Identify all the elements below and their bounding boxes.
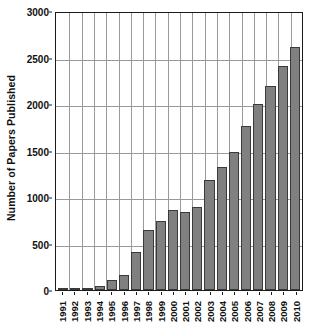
x-tick-mark — [173, 292, 174, 295]
x-tick-label: 1996 — [118, 301, 129, 322]
y-tick-label: 1000 — [27, 193, 49, 204]
x-tick-mark — [87, 292, 88, 295]
x-tick-label: 2005 — [229, 301, 240, 322]
x-tick-mark — [222, 292, 223, 295]
x-tick-mark — [259, 292, 260, 295]
bar-slot — [289, 13, 301, 290]
bar-slot — [69, 13, 81, 290]
bar-slot — [203, 13, 215, 290]
x-tick-slot: 2004 — [216, 292, 228, 329]
x-tick-mark — [210, 292, 211, 295]
x-tick-slot: 1997 — [130, 292, 142, 329]
x-tick-mark — [247, 292, 248, 295]
bar-slot — [57, 13, 69, 290]
bar — [217, 167, 227, 290]
x-tick-mark — [124, 292, 125, 295]
x-tick-label: 2007 — [253, 301, 264, 322]
x-tick-label: 2006 — [241, 301, 252, 322]
x-tick-mark — [136, 292, 137, 295]
bar-slot — [277, 13, 289, 290]
x-tick-label: 1992 — [69, 301, 80, 322]
x-tick-mark — [197, 292, 198, 295]
bar — [253, 104, 263, 290]
x-tick-mark — [74, 292, 75, 295]
bar — [107, 280, 117, 290]
x-tick-slot: 1995 — [105, 292, 117, 329]
x-tick-label: 2010 — [290, 301, 301, 322]
y-axis-title: Number of Papers Published — [0, 0, 22, 295]
bar — [70, 288, 80, 290]
y-tick-mark — [49, 198, 52, 199]
bar — [131, 252, 141, 290]
x-tick-label: 2008 — [266, 301, 277, 322]
x-tick-label: 2001 — [180, 301, 191, 322]
x-tick-label: 1993 — [81, 301, 92, 322]
bar-slot — [191, 13, 203, 290]
bar-slot — [118, 13, 130, 290]
x-tick-mark — [296, 292, 297, 295]
x-tick-slot: 1991 — [56, 292, 68, 329]
x-tick-label: 2002 — [192, 301, 203, 322]
bar-slot — [240, 13, 252, 290]
bar-slot — [167, 13, 179, 290]
x-tick-slot: 2001 — [179, 292, 191, 329]
x-tick-label: 1994 — [94, 301, 105, 322]
bar — [180, 212, 190, 290]
x-tick-mark — [283, 292, 284, 295]
bar-slot — [94, 13, 106, 290]
y-tick-label: 2000 — [27, 100, 49, 111]
bar — [168, 210, 178, 290]
x-tick-slot: 2000 — [167, 292, 179, 329]
bar — [82, 288, 92, 290]
x-tick-label: 1998 — [143, 301, 154, 322]
x-tick-mark — [148, 292, 149, 295]
x-tick-label: 2009 — [278, 301, 289, 322]
bar — [265, 86, 275, 290]
bar-slot — [216, 13, 228, 290]
bar-slot — [264, 13, 276, 290]
y-tick-label: 2500 — [27, 53, 49, 64]
x-tick-slot: 2006 — [240, 292, 252, 329]
x-tick-slot: 2002 — [191, 292, 203, 329]
x-tick-label: 1999 — [155, 301, 166, 322]
y-tick-mark — [49, 244, 52, 245]
x-tick-label: 1991 — [57, 301, 68, 322]
x-tick-mark — [185, 292, 186, 295]
y-tick-mark — [49, 12, 52, 13]
plot-area — [55, 12, 303, 291]
bar — [229, 152, 239, 290]
y-tick-mark — [49, 151, 52, 152]
x-tick-mark — [271, 292, 272, 295]
y-axis-ticks: 050010001500200025003000 — [22, 12, 52, 291]
y-tick-mark — [49, 58, 52, 59]
x-tick-slot: 2003 — [204, 292, 216, 329]
x-tick-slot: 1998 — [142, 292, 154, 329]
bar-slot — [142, 13, 154, 290]
bar-slot — [81, 13, 93, 290]
x-tick-mark — [234, 292, 235, 295]
x-tick-slot: 1996 — [117, 292, 129, 329]
x-tick-slot: 1994 — [93, 292, 105, 329]
x-tick-label: 1995 — [106, 301, 117, 322]
bar-slot — [106, 13, 118, 290]
bar — [156, 221, 166, 290]
y-tick-label: 1500 — [27, 146, 49, 157]
bar-chart: Number of Papers Published 0500100015002… — [0, 0, 311, 329]
x-tick-slot: 1993 — [81, 292, 93, 329]
bar — [58, 288, 68, 290]
x-tick-label: 2003 — [204, 301, 215, 322]
bar — [204, 180, 214, 290]
bar — [119, 275, 129, 290]
bar-slot — [130, 13, 142, 290]
x-tick-label: 2000 — [167, 301, 178, 322]
x-tick-slot: 2009 — [277, 292, 289, 329]
bar — [192, 207, 202, 290]
y-tick-label: 500 — [32, 239, 49, 250]
x-tick-mark — [111, 292, 112, 295]
x-tick-slot: 2007 — [253, 292, 265, 329]
y-tick-mark — [49, 291, 52, 292]
x-tick-slot: 2010 — [290, 292, 302, 329]
x-tick-mark — [62, 292, 63, 295]
bar-slot — [155, 13, 167, 290]
bar — [143, 230, 153, 290]
